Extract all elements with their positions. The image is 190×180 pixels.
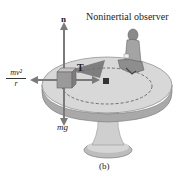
observer-title: Noninertial observer [86,11,168,22]
diagram-canvas [0,0,190,180]
tension-label: T [77,62,84,73]
center-post [103,78,109,84]
centrifugal-denominator: r [6,79,26,88]
block-side [72,68,76,88]
centrifugal-force-label: mv² r [6,68,26,88]
observer-figure [118,29,144,74]
normal-force-label: n [61,14,66,24]
figure-caption: (b) [99,161,110,171]
weight-label-text: mg [57,122,68,132]
centrifugal-numerator: mv² [6,68,26,79]
centrifugal-arrow-head [30,76,38,84]
block [57,72,72,88]
weight-label: mg [57,122,68,132]
